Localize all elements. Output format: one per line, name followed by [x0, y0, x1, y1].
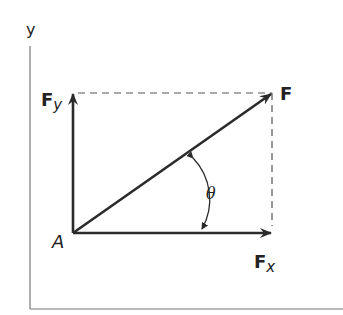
force-diagram: y θ A Fy F Fx [0, 0, 343, 315]
fx-label: Fx [254, 251, 275, 276]
vectors [73, 94, 271, 233]
f-resultant-vector [73, 94, 271, 233]
f-label: F [280, 83, 292, 104]
y-axis-label: y [26, 20, 35, 39]
origin-label-a: A [51, 231, 64, 252]
theta-label: θ [206, 184, 216, 203]
fy-label: Fy [41, 89, 63, 114]
